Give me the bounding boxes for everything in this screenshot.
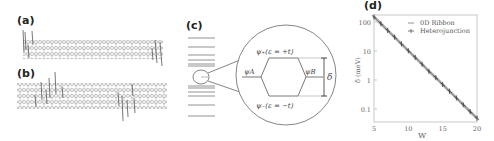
ribbon-b: [17, 72, 167, 121]
y-axis-label: δ (meV): [354, 57, 362, 83]
figure-canvas: ψ₊(ε = +t) ψ₋(ε = −t) ψA ψB δ 0.1110100 …: [0, 0, 494, 141]
psi-b-label: ψB: [305, 68, 316, 76]
y-tick-label: 100: [359, 19, 371, 27]
x-axis-label: W: [418, 131, 427, 140]
ribbon-a: [23, 30, 163, 66]
y-tick-label: 0.1: [361, 106, 371, 114]
legend-0d-ribbon: 0D Ribbon: [420, 19, 455, 27]
delta-label: δ: [327, 72, 332, 82]
legend-heterojunction: Heterojunction: [420, 27, 470, 35]
psi-minus-label: ψ₋(ε = −t): [256, 102, 294, 110]
psi-a-label: ψA: [244, 68, 255, 76]
chart-d: 0.1110100 5101520 W δ (meV) 0D Ribbon He…: [354, 14, 481, 140]
x-tick-label: 20: [473, 125, 481, 133]
y-tick-label: 1: [367, 77, 371, 85]
y-tick-label: 10: [363, 48, 371, 56]
x-tick-label: 15: [439, 125, 447, 133]
x-tick-label: 5: [372, 125, 376, 133]
psi-plus-label: ψ₊(ε = +t): [256, 48, 294, 56]
x-tick-label: 10: [404, 125, 412, 133]
